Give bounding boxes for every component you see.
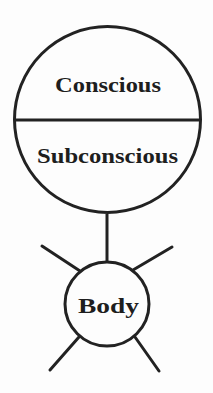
subconscious-label: Subconscious — [37, 145, 178, 167]
mind-body-diagram: Conscious Subconscious Body — [0, 0, 213, 393]
ray-upper-left — [42, 246, 80, 271]
conscious-label: Conscious — [55, 74, 161, 96]
body-label: Body — [78, 294, 140, 318]
mind-circle-group: Conscious Subconscious — [15, 27, 201, 213]
body-circle-group: Body — [42, 246, 172, 371]
ray-lower-left — [50, 337, 79, 370]
ray-upper-right — [133, 247, 172, 270]
ray-lower-right — [135, 337, 159, 371]
